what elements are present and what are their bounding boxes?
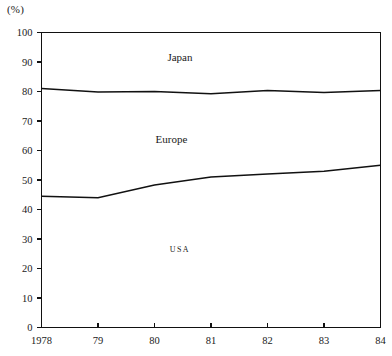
y-tick-label: 50 [22, 175, 33, 186]
y-tick-label: 60 [22, 145, 33, 156]
y-tick-label: 40 [22, 204, 33, 215]
series-label-usa: USA [170, 245, 190, 254]
x-tick-label: 1978 [31, 335, 52, 346]
x-tick-label: 83 [319, 335, 330, 346]
x-tick-label: 79 [93, 335, 104, 346]
series-label-europe: Europe [156, 133, 188, 145]
boundary-line-usa [42, 165, 381, 197]
x-axis-tick-labels: 1978798081828384 [31, 335, 387, 346]
axis-frame [42, 33, 381, 328]
series-inline-labels: JapanEuropeUSA [156, 51, 193, 255]
series-boundary-lines [42, 89, 381, 198]
y-tick-label: 100 [17, 27, 33, 38]
x-tick-label: 84 [375, 335, 386, 346]
y-tick-label: 80 [22, 86, 33, 97]
y-axis-tick-labels: 0102030405060708090100 [17, 27, 33, 333]
y-tick-label: 0 [27, 322, 32, 333]
chart-plot-area: 0102030405060708090100 1978798081828384 … [0, 0, 392, 356]
x-tick-label: 82 [262, 335, 273, 346]
y-tick-label: 10 [22, 293, 33, 304]
y-tick-label: 90 [22, 57, 33, 68]
x-tick-label: 80 [149, 335, 160, 346]
x-tick-label: 81 [206, 335, 217, 346]
y-tick-label: 20 [22, 263, 33, 274]
market-share-area-chart: (%) 0102030405060708090100 1978798081828… [0, 0, 392, 356]
y-tick-label: 30 [22, 234, 33, 245]
series-label-japan: Japan [167, 51, 193, 63]
boundary-line-europe [42, 89, 381, 94]
y-tick-label: 70 [22, 116, 33, 127]
